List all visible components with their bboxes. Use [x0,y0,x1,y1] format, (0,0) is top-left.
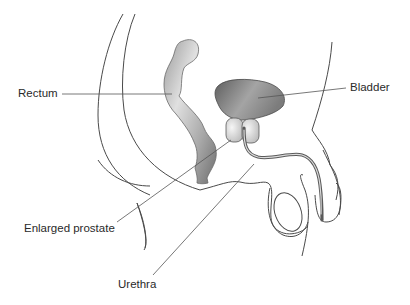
rectum [164,40,216,184]
bladder-label: Bladder [350,82,390,94]
prostate-left-lobe [226,118,243,142]
thigh-outline [137,203,146,250]
perineum-outline [200,182,308,234]
bladder [215,79,284,120]
abdomen-outline [312,42,338,200]
anatomy-illustration [0,0,410,305]
pelvis-diagram: Rectum Bladder Enlarged prostate Urethra [0,0,410,305]
back-outline-outer [98,14,150,195]
enlarged-prostate-label: Enlarged prostate [24,223,115,235]
urethra-lumen [244,130,321,214]
urethra-label: Urethra [118,279,156,291]
rectum-label: Rectum [18,88,58,100]
prostate-leader [117,140,231,222]
